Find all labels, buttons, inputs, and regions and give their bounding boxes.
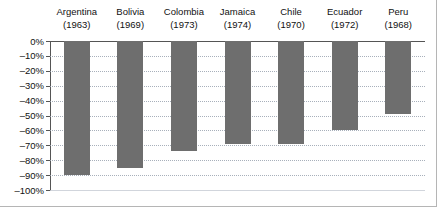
y-axis-tick (46, 145, 50, 146)
bar (117, 41, 143, 168)
y-axis-tick (46, 175, 50, 176)
y-axis-tick-label: –70% (0, 141, 44, 151)
y-axis-tick-label: –60% (0, 126, 44, 136)
category-name: Jamaica (220, 6, 255, 17)
y-axis-tick (46, 71, 50, 72)
bar (332, 41, 358, 130)
plot-area (50, 41, 425, 190)
y-axis-tick (46, 86, 50, 87)
y-axis-tick-label: –20% (0, 66, 44, 76)
category-label: Peru(1968) (358, 6, 437, 31)
gridline (50, 175, 425, 176)
bar (278, 41, 304, 144)
category-name: Bolivia (116, 6, 144, 17)
bar (385, 41, 411, 114)
gridline (50, 190, 425, 191)
gridline (50, 145, 425, 146)
y-axis-tick (46, 190, 50, 191)
bar-chart: 0%–10%–20%–30%–40%–50%–60%–70%–80%–90%–1… (0, 0, 437, 207)
category-name: Chile (280, 6, 302, 17)
y-axis-tick-label: –30% (0, 81, 44, 91)
bar (225, 41, 251, 144)
y-axis-tick (46, 116, 50, 117)
y-axis-tick-labels: 0%–10%–20%–30%–40%–50%–60%–70%–80%–90%–1… (0, 41, 48, 191)
y-axis-tick-label: 0% (0, 37, 44, 47)
category-name: Ecuador (327, 6, 362, 17)
y-axis-tick-label: –40% (0, 96, 44, 106)
y-axis-tick (46, 56, 50, 57)
bar (64, 41, 90, 175)
category-year: (1968) (358, 19, 437, 32)
y-axis-tick-label: –80% (0, 156, 44, 166)
y-axis-tick-label: –100% (0, 186, 44, 196)
y-axis-tick (46, 130, 50, 131)
y-axis-tick-label: –90% (0, 171, 44, 181)
bar (171, 41, 197, 151)
gridline (50, 160, 425, 161)
y-axis-tick (46, 160, 50, 161)
category-name: Peru (388, 6, 408, 17)
y-axis-tick-label: –10% (0, 51, 44, 61)
y-axis-tick (46, 41, 50, 42)
y-axis-tick (46, 101, 50, 102)
y-axis-tick-label: –50% (0, 111, 44, 121)
